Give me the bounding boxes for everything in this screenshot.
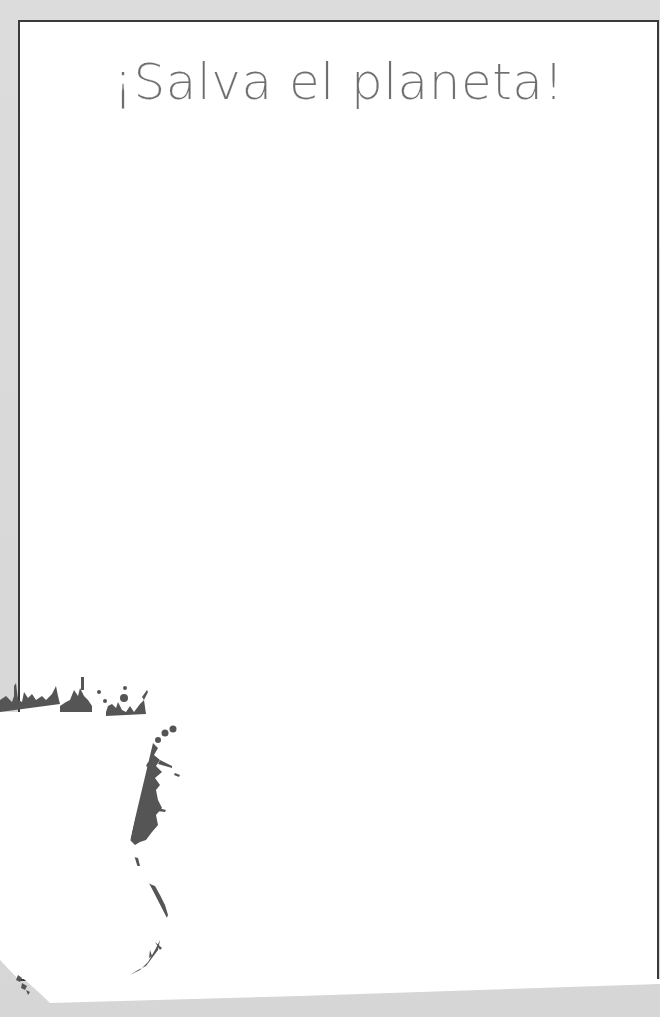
page-title: ¡Salva el planeta!: [20, 52, 657, 112]
content-frame: ¡Salva el planeta!: [18, 20, 659, 981]
